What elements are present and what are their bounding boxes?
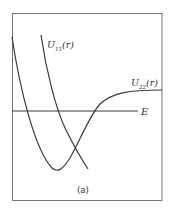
- energy-label: E: [140, 106, 149, 117]
- figure-caption: (a): [77, 185, 89, 195]
- diagram-frame: [13, 14, 163, 201]
- u11-label: U11(r): [47, 39, 74, 52]
- u11-curve: [41, 35, 88, 169]
- u22-label: U22(r): [131, 77, 158, 90]
- potential-curves-diagram: U11(r) U22(r) E (a): [0, 0, 171, 209]
- u22-curve: [12, 37, 162, 170]
